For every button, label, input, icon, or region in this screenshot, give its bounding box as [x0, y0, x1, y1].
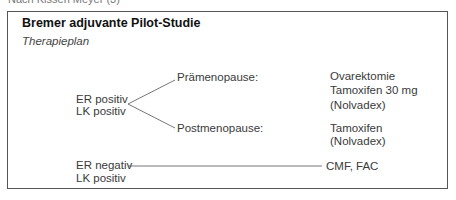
lk-positiv-neg-label: LK positiv [76, 171, 126, 185]
therapy-post-2: (Nolvadex) [330, 134, 386, 148]
therapy-post-1: Tamoxifen [330, 121, 382, 135]
therapy-pre-2: Tamoxifen 30 mg [330, 83, 418, 97]
postmenopause-label: Postmenopause: [177, 121, 263, 135]
therapy-pre-1: Ovarektomie [330, 69, 395, 83]
premenopause-label: Prämenopause: [177, 70, 258, 84]
lk-positiv-label: LK positiv [76, 104, 126, 118]
therapy-negative: CMF, FAC [326, 159, 378, 173]
therapy-pre-3: (Nolvadex) [330, 98, 386, 112]
er-negativ-label: ER negativ [76, 158, 132, 172]
connector-lines [0, 0, 456, 200]
